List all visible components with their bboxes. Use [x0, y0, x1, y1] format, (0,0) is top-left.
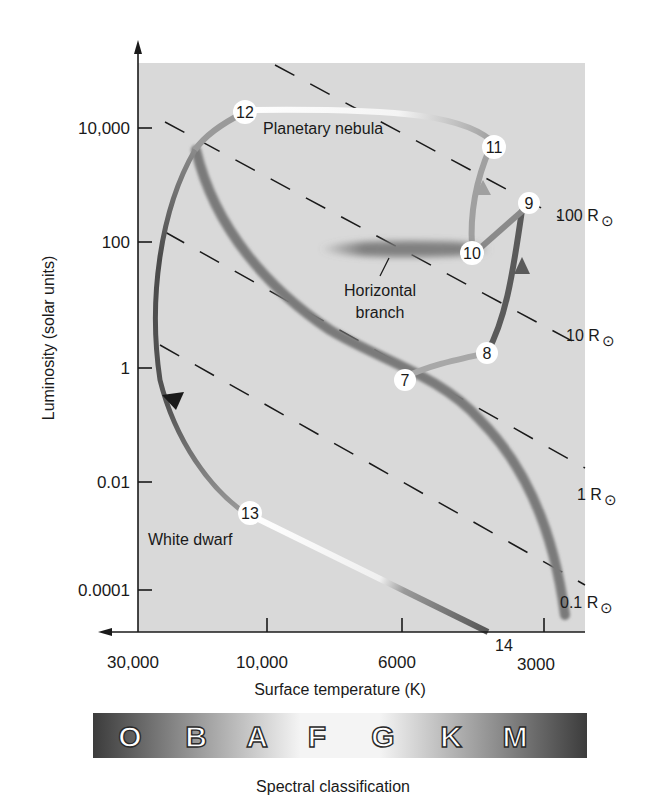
svg-text:12: 12 — [236, 104, 254, 121]
stage-14: 14 — [495, 637, 513, 654]
sun-symbol-icon: ⊙ — [602, 332, 615, 349]
spectral-class-B: B — [185, 720, 207, 753]
sun-symbol-icon: ⊙ — [604, 491, 617, 508]
planetary-nebula-label: Planetary nebula — [263, 120, 383, 137]
spectral-class-K: K — [440, 720, 462, 753]
white-dwarf-label: White dwarf — [148, 531, 233, 548]
y-tick-100: 100 — [102, 233, 130, 252]
horizontal-branch-label-line1: Horizontal — [344, 282, 416, 299]
svg-text:14: 14 — [495, 637, 513, 654]
y-tick-0.01: 0.01 — [97, 473, 130, 492]
spectral-class-O: O — [118, 720, 141, 753]
svg-text:8: 8 — [483, 345, 492, 362]
spectral-class-F: F — [308, 720, 326, 753]
y-axis-title: Luminosity (solar units) — [40, 256, 57, 421]
stage-10: 10 — [460, 241, 484, 265]
x-axis-title: Surface temperature (K) — [254, 681, 426, 698]
hr-diagram: 10,000 100 1 0.01 0.0001 30,000 10,000 6… — [0, 0, 662, 806]
x-tick-6000: 6000 — [378, 653, 416, 672]
sun-symbol-icon: ⊙ — [601, 212, 614, 229]
spectral-title: Spectral classification — [256, 778, 410, 795]
y-tick-10000: 10,000 — [78, 119, 130, 138]
svg-text:10: 10 — [463, 245, 481, 262]
x-tick-30000: 30,000 — [107, 653, 159, 672]
sun-symbol-icon: ⊙ — [600, 599, 613, 616]
y-tick-0.0001: 0.0001 — [78, 581, 130, 600]
svg-text:9: 9 — [525, 195, 534, 212]
spectral-class-G: G — [371, 720, 394, 753]
svg-text:13: 13 — [241, 505, 259, 522]
svg-text:11: 11 — [486, 139, 503, 156]
svg-text:7: 7 — [401, 372, 410, 389]
stage-13: 13 — [238, 501, 262, 525]
stage-8: 8 — [476, 342, 498, 364]
stage-12: 12 — [233, 100, 257, 124]
spectral-class-M: M — [503, 720, 528, 753]
stage-9: 9 — [518, 192, 540, 214]
x-tick-3000: 3000 — [517, 655, 555, 674]
spectral-class-A: A — [246, 720, 268, 753]
y-tick-1: 1 — [121, 359, 130, 378]
horizontal-branch-label-line2: branch — [356, 304, 405, 321]
stage-11: 11 — [482, 135, 506, 159]
stage-7: 7 — [394, 369, 416, 391]
x-tick-10000: 10,000 — [236, 653, 288, 672]
